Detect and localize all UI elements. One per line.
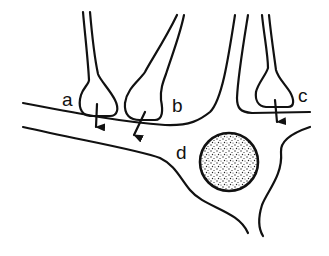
arrow-a (96, 104, 97, 127)
axon-terminal-c: c (256, 15, 308, 122)
terminal-a-stalk-left (80, 12, 118, 116)
axon-terminal-a: a (62, 12, 117, 127)
arrow-c (275, 100, 277, 122)
nucleus (200, 133, 258, 191)
cell-membrane-right-lower (259, 127, 310, 236)
label-a: a (62, 89, 73, 110)
dendrite-upper-membrane (23, 15, 235, 125)
cell-body-d: d (176, 133, 258, 191)
label-d: d (176, 142, 187, 163)
label-c: c (298, 85, 308, 106)
neuron-synapse-diagram: a b c d (0, 0, 329, 256)
axon-terminal-b: b (125, 15, 184, 135)
terminal-c-stalk (256, 15, 293, 107)
label-b: b (172, 95, 183, 116)
